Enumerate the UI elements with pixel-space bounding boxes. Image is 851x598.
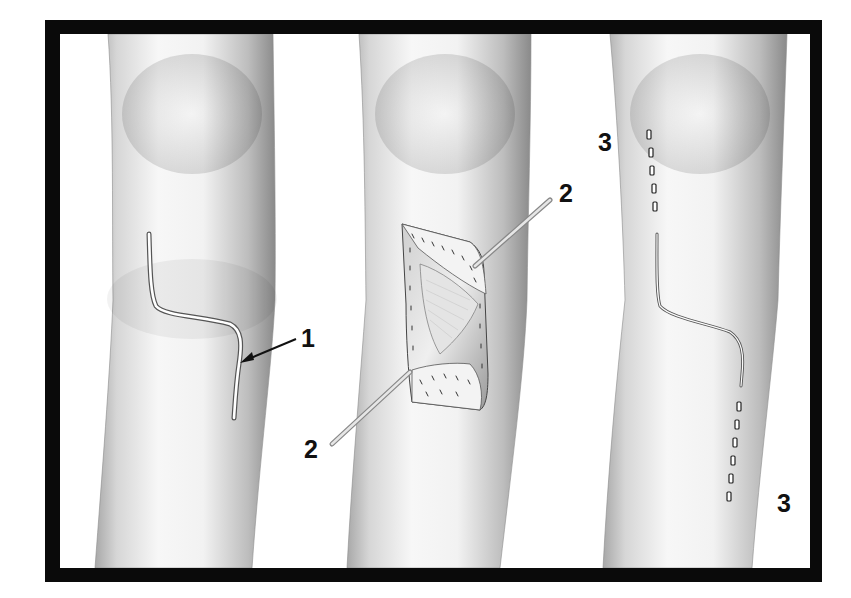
leg-3 <box>603 34 787 568</box>
callout-2-lower: 2 <box>304 437 318 462</box>
leg-1 <box>95 34 296 568</box>
callout-2-upper: 2 <box>559 181 573 206</box>
callout-3-upper: 3 <box>598 130 612 155</box>
illustration-canvas <box>60 34 810 568</box>
callout-1: 1 <box>301 326 315 351</box>
leg-2 <box>332 34 550 568</box>
illustration-panel: 1 2 2 3 3 <box>60 34 810 568</box>
illustration-frame: 1 2 2 3 3 <box>45 20 822 582</box>
callout-3-lower: 3 <box>777 491 791 516</box>
